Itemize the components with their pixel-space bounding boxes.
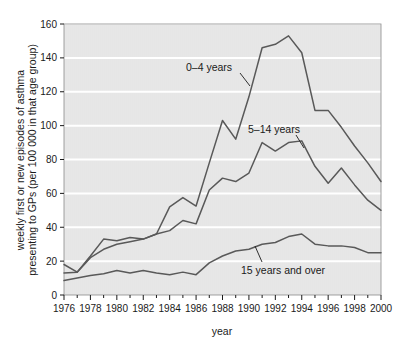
- x-tick-label: 1990: [238, 303, 261, 314]
- y-tick-label: 100: [40, 120, 57, 131]
- x-axis-tick-labels: 1976197819801982198419861988199019921994…: [53, 303, 393, 314]
- x-tick-label: 1994: [291, 303, 314, 314]
- series-label-0-4-years: 0–4 years: [186, 61, 232, 73]
- y-tick-label: 0: [51, 290, 57, 301]
- y-tick-label: 160: [40, 19, 57, 30]
- y-tick-label: 60: [46, 188, 58, 199]
- series-label-15-years-and-over: 15 years and over: [241, 264, 326, 276]
- x-tick-label: 1992: [264, 303, 287, 314]
- y-axis-tick-labels: 020406080100120140160: [40, 19, 57, 301]
- x-tick-label: 1978: [79, 303, 102, 314]
- x-tick-label: 1976: [53, 303, 76, 314]
- y-tick-label: 80: [46, 154, 58, 165]
- x-tick-label: 2000: [370, 303, 393, 314]
- x-tick-label: 1988: [211, 303, 234, 314]
- x-tick-label: 1984: [159, 303, 182, 314]
- y-tick-label: 20: [46, 256, 58, 267]
- y-axis-title-line-1: weekly first or new episodes of asthma: [14, 70, 26, 251]
- chart-canvas: 020406080100120140160 197619781980198219…: [0, 0, 398, 346]
- series-label-5-14-years: 5–14 years: [248, 123, 300, 135]
- y-tick-label: 120: [40, 86, 57, 97]
- x-tick-label: 1998: [343, 303, 366, 314]
- y-tick-label: 140: [40, 52, 57, 63]
- y-axis-title-line-2: presenting to GPs (per 100 000 in that a…: [26, 44, 38, 276]
- x-tick-label: 1980: [106, 303, 129, 314]
- x-tick-label: 1996: [317, 303, 340, 314]
- x-axis-ticks: [64, 295, 381, 300]
- y-tick-label: 40: [46, 222, 58, 233]
- x-tick-label: 1982: [132, 303, 155, 314]
- x-axis-title: year: [212, 325, 233, 337]
- y-axis-ticks: [60, 24, 64, 295]
- asthma-episodes-line-chart: 020406080100120140160 197619781980198219…: [0, 0, 398, 346]
- x-tick-label: 1986: [185, 303, 208, 314]
